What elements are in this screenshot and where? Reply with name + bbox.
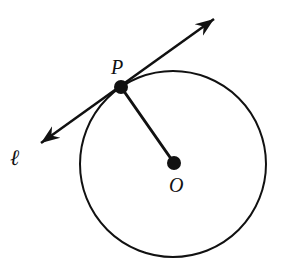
point-dot-p xyxy=(114,80,128,94)
geometry-figure: P O ℓ xyxy=(0,0,281,275)
label-tangent-line: ℓ xyxy=(10,145,20,170)
figure-background xyxy=(0,0,281,275)
geometry-canvas: P O ℓ xyxy=(0,0,281,275)
label-point-o: O xyxy=(169,174,183,196)
label-point-p: P xyxy=(110,56,123,78)
point-dot-o xyxy=(167,156,181,170)
